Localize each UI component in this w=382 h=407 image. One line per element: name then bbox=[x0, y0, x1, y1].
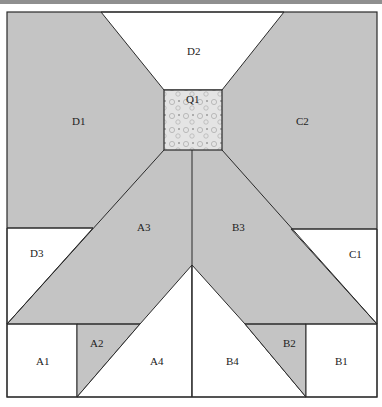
label-c1: C1 bbox=[349, 248, 362, 260]
label-d3: D3 bbox=[30, 247, 44, 259]
quilt-block-diagram: D2 Q1 D1 C2 A3 B3 D3 C1 A2 B2 A1 A4 B4 B… bbox=[0, 0, 382, 407]
label-b4: B4 bbox=[226, 355, 239, 367]
label-b1: B1 bbox=[335, 355, 348, 367]
label-b2: B2 bbox=[283, 337, 296, 349]
label-a3: A3 bbox=[137, 221, 151, 233]
label-d2: D2 bbox=[187, 45, 200, 57]
label-a1: A1 bbox=[36, 355, 49, 367]
label-q1: Q1 bbox=[186, 93, 199, 105]
label-c2: C2 bbox=[296, 115, 309, 127]
label-a2: A2 bbox=[90, 337, 103, 349]
label-b3: B3 bbox=[232, 221, 245, 233]
label-d1: D1 bbox=[72, 115, 85, 127]
label-a4: A4 bbox=[150, 355, 164, 367]
